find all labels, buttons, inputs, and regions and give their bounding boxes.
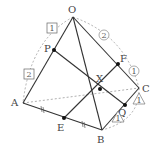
ratio-triangle-1a-text: 1 bbox=[137, 96, 142, 105]
label-A: A bbox=[10, 97, 19, 108]
segment-EF bbox=[64, 64, 118, 118]
segment-PQ bbox=[54, 50, 125, 105]
label-X: X bbox=[96, 73, 104, 84]
label-F: F bbox=[120, 53, 127, 64]
point-X bbox=[98, 87, 102, 91]
tetrahedron-diagram: O P A E B C F Q X 1 2 2 1 1 1 bbox=[0, 0, 155, 150]
equal-mark-EB bbox=[82, 121, 85, 128]
label-E: E bbox=[57, 122, 64, 133]
ratio-triangle-1b-text: 1 bbox=[116, 114, 121, 123]
ratio-box-1-text: 1 bbox=[50, 24, 55, 33]
ratio-circle-2-text: 2 bbox=[102, 31, 107, 40]
label-B: B bbox=[97, 134, 104, 145]
ratio-circle-1-text: 1 bbox=[132, 67, 137, 76]
point-P bbox=[52, 48, 56, 52]
label-P: P bbox=[44, 43, 51, 54]
edge-OC bbox=[73, 17, 139, 88]
point-E bbox=[62, 116, 66, 120]
label-O: O bbox=[68, 4, 76, 15]
label-C: C bbox=[142, 83, 150, 94]
ratio-box-2-text: 2 bbox=[27, 70, 32, 79]
